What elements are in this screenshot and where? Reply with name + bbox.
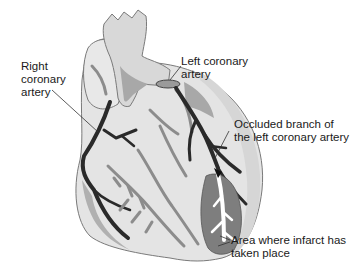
label-left-coronary-artery: Left coronary artery bbox=[181, 55, 248, 81]
label-right-coronary-artery: Right coronary artery bbox=[21, 60, 66, 99]
label-infarct-area: Area where infarct has taken place bbox=[231, 234, 346, 260]
label-line: artery bbox=[21, 86, 66, 99]
label-line: artery bbox=[181, 68, 248, 81]
label-line: Right bbox=[21, 60, 66, 73]
label-line: Occluded branch of bbox=[234, 118, 349, 131]
label-line: taken place bbox=[231, 247, 346, 260]
label-occluded-branch: Occluded branch of the left coronary art… bbox=[234, 118, 349, 144]
label-line: Left coronary bbox=[181, 55, 248, 68]
label-line: coronary bbox=[21, 73, 66, 86]
label-line: Area where infarct has bbox=[231, 234, 346, 247]
label-line: the left coronary artery bbox=[234, 131, 349, 144]
